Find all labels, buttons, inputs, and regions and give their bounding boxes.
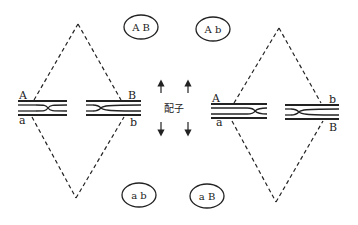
gamete-center-label: 配子: [164, 103, 184, 114]
gamete-label: a B: [199, 191, 216, 202]
right-label-top-right: b: [329, 93, 336, 106]
gamete-ab: a b: [122, 183, 156, 207]
left-label-bottom-right: b: [130, 116, 137, 129]
right-label-top-left: A: [211, 92, 221, 105]
left-chromosome-segment-2: [86, 101, 141, 115]
right-label-bottom-left: a: [216, 116, 223, 129]
left-label-top-left: A: [18, 89, 28, 102]
crossover-diagram: A a B b A a b B A B A b a b a B: [0, 0, 358, 225]
gamete-label: a b: [131, 190, 147, 201]
gamete-aB: a B: [190, 184, 224, 208]
right-label-bottom-right: B: [329, 121, 337, 134]
gamete-label: A B: [131, 22, 150, 33]
left-chromosome-segment-1: [18, 101, 67, 115]
gamete-AB: A B: [124, 15, 158, 39]
gamete-Ab: A b: [196, 17, 230, 41]
left-label-top-right: B: [128, 89, 136, 102]
left-label-bottom-left: a: [19, 114, 26, 127]
gamete-label: A b: [204, 24, 222, 35]
right-chromosome-segment-2: [285, 105, 339, 119]
